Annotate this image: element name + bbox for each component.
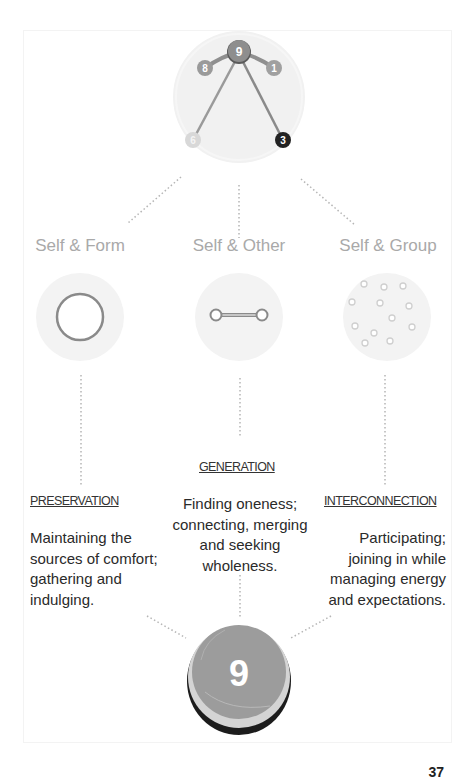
svg-text:3: 3 (280, 135, 286, 146)
category-label-self-form: Self & Form (10, 236, 150, 256)
svg-text:1: 1 (271, 63, 277, 74)
svg-text:9: 9 (236, 45, 243, 59)
bottom-badge-number: 9 (229, 653, 249, 694)
node-8: 8 (197, 60, 213, 76)
node-3: 3 (275, 132, 291, 148)
node-6: 6 (185, 132, 201, 148)
heading-generation: GENERATION (199, 460, 275, 474)
link-icon (195, 273, 283, 361)
ring-icon (36, 273, 124, 361)
category-label-self-group: Self & Group (318, 236, 458, 256)
description-interconnection: Participating; joining in while managing… (300, 528, 446, 610)
description-generation: Finding oneness; connecting, merging and… (165, 494, 315, 576)
top-wing-diagram: 8 1 6 3 9 (173, 31, 305, 163)
heading-interconnection: INTERCONNECTION (324, 494, 437, 508)
top-connectors (128, 177, 355, 238)
svg-text:6: 6 (190, 135, 196, 146)
node-1: 1 (266, 60, 282, 76)
bottom-badge: 9 (187, 625, 291, 735)
category-label-self-other: Self & Other (169, 236, 309, 256)
node-9: 9 (227, 40, 251, 64)
description-preservation: Maintaining the sources of comfort; gath… (30, 528, 180, 610)
heading-preservation: PRESERVATION (30, 494, 119, 508)
page-number: 37 (428, 764, 444, 780)
svg-text:8: 8 (202, 63, 208, 74)
dots-cluster-icon (343, 273, 431, 361)
